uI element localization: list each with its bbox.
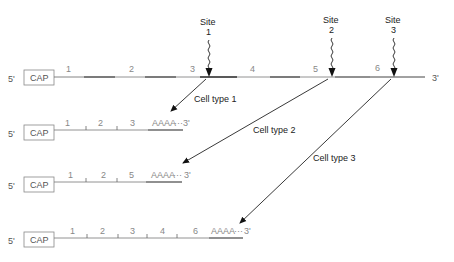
site-label: Site — [200, 17, 216, 27]
exon-label: 4 — [250, 64, 255, 74]
arrow-cell-type-3 — [240, 79, 391, 223]
exon-label: 2 — [129, 64, 134, 74]
cap-label: CAP — [30, 73, 49, 83]
exon-label: 1 — [66, 64, 71, 74]
precursor-transcript: 5' CAP 1 2 3 4 5 6 3' — [8, 63, 439, 85]
site-number: 1 — [206, 27, 211, 37]
diagram-canvas: 5' CAP 1 2 3 4 5 6 3' Site 1 Site 2 Site — [0, 0, 454, 262]
exon-label: 5 — [313, 64, 318, 74]
mrna-cell-type-2: 5' CAP 1 2 5 AAAA ··· 3' — [8, 170, 191, 192]
mrna-cell-type-1: 5' CAP 1 2 3 AAAA ··· 3' — [8, 118, 190, 140]
exon-label: 1 — [70, 226, 75, 236]
poly-a-label: AAAA — [152, 118, 176, 128]
poly-a-label: AAAA — [211, 226, 235, 236]
three-prime-label: 3' — [244, 226, 251, 236]
exon-label: 2 — [100, 226, 105, 236]
exon-label: 6 — [375, 63, 380, 73]
exon-label: 3 — [130, 118, 135, 128]
three-prime-label: 3' — [183, 118, 190, 128]
five-prime-label: 5' — [8, 181, 15, 191]
poly-a-label: AAAA — [151, 170, 175, 180]
three-prime-label: 3' — [184, 170, 191, 180]
exon-label: 3 — [190, 64, 195, 74]
exon-label: 1 — [65, 118, 70, 128]
wavy-arrow-icon — [331, 38, 333, 72]
five-prime-label: 5' — [8, 129, 15, 139]
wavy-arrow-icon — [208, 40, 210, 70]
exon-label: 2 — [101, 170, 106, 180]
ellipsis: ··· — [173, 170, 182, 180]
five-prime-label: 5' — [8, 74, 15, 84]
site-label: Site — [385, 15, 401, 25]
site-1: Site 1 — [200, 17, 216, 77]
exon-label: 6 — [193, 226, 198, 236]
exon-label: 2 — [98, 118, 103, 128]
wavy-arrow-icon — [393, 38, 395, 72]
cap-label: CAP — [30, 128, 49, 138]
cell-type-label: Cell type 3 — [313, 153, 356, 163]
site-label: Site — [323, 15, 339, 25]
five-prime-label: 5' — [8, 236, 15, 246]
cell-type-label: Cell type 1 — [194, 94, 237, 104]
site-3: Site 3 — [385, 15, 401, 77]
site-number: 3 — [391, 25, 396, 35]
cap-label: CAP — [30, 235, 49, 245]
exon-label: 1 — [68, 170, 73, 180]
exon-label: 3 — [130, 226, 135, 236]
cell-type-label: Cell type 2 — [253, 125, 296, 135]
ellipsis: ··· — [234, 226, 243, 236]
site-2: Site 2 — [323, 15, 339, 77]
exon-label: 4 — [160, 226, 165, 236]
exon-label: 5 — [129, 170, 134, 180]
three-prime-label: 3' — [432, 73, 439, 83]
mrna-cell-type-3: 5' CAP 1 2 3 4 6 AAAA ··· 3' — [8, 226, 251, 247]
arrow-cell-type-2 — [183, 79, 328, 163]
ellipsis: ··· — [174, 118, 183, 128]
site-number: 2 — [329, 25, 334, 35]
cap-label: CAP — [30, 180, 49, 190]
